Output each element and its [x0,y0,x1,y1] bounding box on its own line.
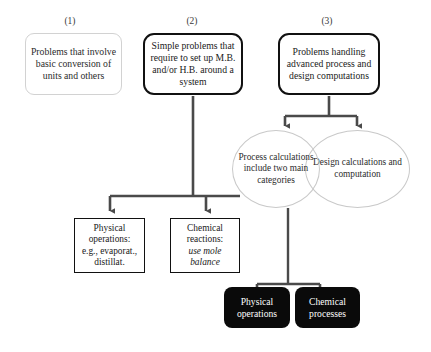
simple-problems-mb-hb-box: Simple problems that require to set up M… [143,33,243,95]
process-calculations-label: Process calculations include two main ca… [235,152,318,187]
connector-node2-to-mid-boxes [110,96,240,211]
diagram-canvas: (1) (2) (3) Problems that involve basic … [0,0,431,352]
physical-operations-label: Physical operations: e.g., evaporat., di… [75,223,144,269]
physical-operations-filled-box: Physical operations [224,287,290,328]
chemical-processes-filled-box: Chemical processes [295,287,360,328]
connector-node3-to-ellipses [285,96,357,126]
chemical-reactions-label: Chemical reactions: use mole balance [171,223,239,269]
caption-group-3: (3) [312,16,342,26]
problems-advanced-process-design-label: Problems handling advanced process and d… [280,46,378,81]
physical-operations-filled-label: Physical operations [224,296,290,319]
simple-problems-mb-hb-label: Simple problems that require to set up M… [145,40,241,87]
chemical-reactions-box: Chemical reactions: use mole balance [170,218,240,273]
process-calculations-ellipse: Process calculations include two main ca… [232,130,320,208]
problems-basic-conversion-label: Problems that involve basic conversion o… [26,46,121,81]
design-calculations-ellipse: Design calculations and computation [305,130,410,208]
design-calculations-label: Design calculations and computation [308,157,407,180]
chemical-processes-filled-label: Chemical processes [295,296,360,319]
caption-group-1: (1) [55,16,85,26]
caption-group-2: (2) [177,16,207,26]
problems-basic-conversion-box: Problems that involve basic conversion o… [25,33,122,95]
physical-operations-box: Physical operations: e.g., evaporat., di… [74,218,145,273]
connector-ellipse-to-filled-boxes [257,208,320,289]
problems-advanced-process-design-box: Problems handling advanced process and d… [278,33,380,95]
